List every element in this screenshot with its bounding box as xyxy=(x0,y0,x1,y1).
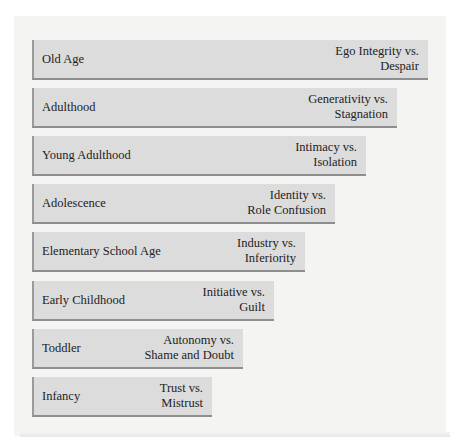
stage-bar-adolescence: Adolescence Identity vs. Role Confusion xyxy=(32,184,335,224)
crisis-label: Trust vs. Mistrust xyxy=(160,381,203,411)
crisis-line-1: Ego Integrity vs. xyxy=(335,44,419,59)
stage-label: Toddler xyxy=(42,341,81,356)
crisis-line-2: Inferiority xyxy=(237,251,296,266)
crisis-line-2: Shame and Doubt xyxy=(144,348,234,363)
stage-label: Adulthood xyxy=(42,100,95,115)
crisis-line-1: Intimacy vs. xyxy=(295,140,357,155)
crisis-line-1: Autonomy vs. xyxy=(144,333,234,348)
crisis-line-1: Identity vs. xyxy=(247,188,326,203)
stage-bar-adulthood: Adulthood Generativity vs. Stagnation xyxy=(32,88,397,128)
stage-label: Young Adulthood xyxy=(42,148,131,163)
stage-label: Early Childhood xyxy=(42,293,125,308)
crisis-line-1: Industry vs. xyxy=(237,236,296,251)
scan-edge xyxy=(20,432,450,437)
stage-bar-toddler: Toddler Autonomy vs. Shame and Doubt xyxy=(32,329,243,369)
stage-label: Old Age xyxy=(42,52,84,67)
stage-label: Infancy xyxy=(42,389,80,404)
crisis-line-2: Isolation xyxy=(295,155,357,170)
crisis-label: Initiative vs. Guilt xyxy=(203,285,266,315)
crisis-label: Autonomy vs. Shame and Doubt xyxy=(144,333,234,363)
crisis-line-2: Stagnation xyxy=(308,107,388,122)
stage-bar-old-age: Old Age Ego Integrity vs. Despair xyxy=(32,40,428,80)
crisis-line-1: Generativity vs. xyxy=(308,92,388,107)
crisis-line-2: Despair xyxy=(335,59,419,74)
crisis-label: Generativity vs. Stagnation xyxy=(308,92,388,122)
stage-bar-young-adulthood: Young Adulthood Intimacy vs. Isolation xyxy=(32,136,366,176)
crisis-line-2: Guilt xyxy=(203,300,266,315)
crisis-label: Identity vs. Role Confusion xyxy=(247,188,326,218)
crisis-line-2: Mistrust xyxy=(160,396,203,411)
crisis-line-1: Trust vs. xyxy=(160,381,203,396)
stage-bar-elementary-school-age: Elementary School Age Industry vs. Infer… xyxy=(32,232,305,272)
crisis-label: Industry vs. Inferiority xyxy=(237,236,296,266)
stage-bar-early-childhood: Early Childhood Initiative vs. Guilt xyxy=(32,281,274,321)
stage-bar-infancy: Infancy Trust vs. Mistrust xyxy=(32,377,212,417)
stage-label: Elementary School Age xyxy=(42,244,161,259)
crisis-line-2: Role Confusion xyxy=(247,203,326,218)
crisis-label: Ego Integrity vs. Despair xyxy=(335,44,419,74)
crisis-label: Intimacy vs. Isolation xyxy=(295,140,357,170)
stage-label: Adolescence xyxy=(42,196,106,211)
crisis-line-1: Initiative vs. xyxy=(203,285,266,300)
